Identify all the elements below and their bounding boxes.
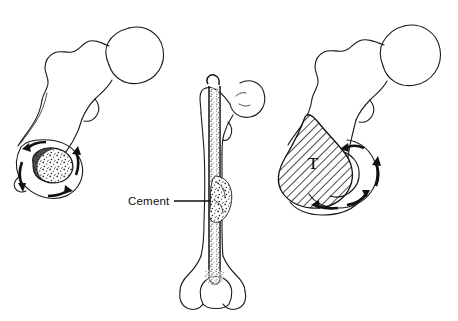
rotation-arrow-left	[20, 162, 22, 186]
cement-annotation: Cement	[128, 195, 210, 207]
illustration-canvas: T	[0, 0, 458, 321]
lateral-shaft-edge	[18, 100, 42, 146]
mid-femoral-head-outline	[230, 81, 265, 118]
right-femoral-head-outline	[383, 25, 440, 86]
distal-cancellous-stipple	[204, 269, 224, 286]
mid-head-neck-detail	[239, 104, 250, 106]
femoral-neck-inferior-contour	[82, 80, 112, 119]
proximal-shaft-superior-contour	[42, 41, 109, 100]
femoral-head-outline	[109, 27, 164, 84]
mid-distal-lateral-flare	[180, 256, 201, 291]
right-neck-inferior-contour	[356, 81, 387, 120]
right-rotation-arrow-right	[376, 163, 378, 186]
rotation-arrow-left-head	[18, 183, 26, 192]
mid-distal-medial-flare	[223, 256, 245, 291]
mid-head-detail-2	[236, 93, 246, 96]
femur-illustration-svg: T	[0, 0, 458, 321]
middle-panel-whole-femur	[180, 75, 265, 310]
rod-proximal-hook	[207, 75, 219, 85]
rotation-arrow-top	[28, 142, 46, 148]
tumor-label-T: T	[308, 154, 319, 173]
left-panel-proximal-femur	[14, 27, 163, 198]
right-panel-proximal-femur-tumor: T	[278, 25, 440, 215]
right-rotation-arrow-top	[346, 146, 364, 148]
mid-greater-trochanter	[200, 88, 206, 113]
right-greater-trochanter-outline	[380, 26, 404, 66]
cement-label-text: Cement	[128, 195, 170, 207]
mid-lateral-shaft	[201, 113, 205, 256]
mid-lateral-condyle	[180, 291, 203, 309]
rotation-arrow-right	[76, 152, 78, 175]
right-proximal-shaft-superior	[312, 40, 384, 99]
cement-mass-midshaft	[209, 176, 231, 222]
greater-trochanter-outline	[106, 28, 129, 65]
